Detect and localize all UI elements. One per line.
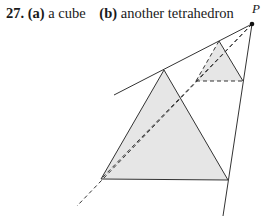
projection-diagram [0, 0, 264, 216]
right-projection-line [223, 24, 252, 216]
top-projection-line [114, 24, 252, 95]
large-triangle [101, 70, 228, 180]
point-p [250, 22, 255, 27]
